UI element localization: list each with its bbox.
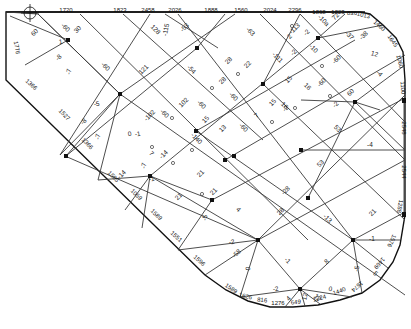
member-force-label: 15 [283,74,293,84]
boundary-length-label: 1059 [130,188,144,202]
member-force-label: -14 [157,148,169,160]
origin-crosshair-icon [21,4,39,22]
boundary-length-label: 2024 [263,7,277,13]
member-force-label: 22 [242,59,252,69]
boundary-length-label: 2544 [401,165,407,179]
boundary-length-label: 1888 [204,7,218,13]
member-force-label: 12 [300,292,308,301]
member-force-label: -60 [315,76,327,88]
member-force-label: -1 [283,256,292,265]
member-force-label: 60 [29,27,39,37]
boundary-length-label: 1589 [150,208,164,222]
member-force-label: 21 [208,186,218,196]
member-force-label: -1 [369,235,375,242]
boundary-length-label: 1576 [386,234,397,249]
member-force-label: 28 [223,55,233,65]
boundary-length-label: 1823 [113,7,127,13]
member-force-label: -4 [375,69,384,78]
member-force-label: -60 [100,60,112,72]
member-force-label: -13 [322,212,334,224]
member-force-label: 21 [173,191,183,201]
member-force-label: 13 [217,123,227,133]
boundary-length-label: 2026 [168,7,182,13]
member-force-label: 21 [195,168,205,178]
member-force-label: 4 [235,205,243,213]
member-force-label: -5 [93,100,100,108]
member-force-label: -2 [228,238,235,246]
hinge-markers [150,24,331,195]
member-force-label: -115 [161,22,170,36]
member-force-label: 1 [58,38,63,46]
boundary-length-label: 1560 [234,7,248,13]
member-force-label: -10 [308,42,320,54]
member-force-label: -58 [230,247,242,259]
boundary-length-label: 1645 [386,34,399,49]
boundary-length-label: 1100 [399,81,406,95]
member-force-label: -38 [357,29,369,41]
boundary-length-label: 1276 [271,300,285,306]
member-force-label: -60 [196,98,208,110]
member-force-label: -1 [148,175,155,183]
boundary-length-label: 816 [257,297,268,304]
member-force-label: -2 [302,27,311,36]
member-force-label: -53 [178,21,190,33]
boundary-length-label: 1460 [372,19,387,33]
member-force-label: 0 [127,130,132,138]
boundary-length-label: 2296 [288,7,302,13]
member-force-label: -7 [94,133,102,140]
member-force-label: 102 [177,96,190,109]
member-force-label: 53 [315,158,325,168]
member-force-label: -60 [159,107,171,119]
boundary-length-label: 2548 [401,121,407,135]
boundary-length-label: 2458 [141,7,155,13]
member-force-label: -4 [367,141,373,148]
member-force-label: 7 [148,149,156,157]
member-force-label: 16 [303,81,313,91]
member-force-label: -60 [330,53,342,65]
member-force-label: -8 [54,52,63,61]
member-force-label: -113 [287,21,301,35]
boundary-length-label: 1366 [24,78,38,92]
boundary-length-label: 1469 [373,256,387,271]
member-force-label: 15 [200,114,210,124]
member-force-label: -1 [134,130,141,138]
member-force-label: 7 [252,111,260,119]
member-force-label: 15 [267,97,277,107]
member-force-label: 30 [72,24,82,34]
member-force-label: 121 [137,63,150,76]
boundary-length-label: 1776 [13,41,21,56]
member-force-label: -102 [142,108,156,122]
member-force-label: 21 [367,207,377,217]
member-force-label: -5 [353,265,361,272]
member-force-label: -8 [79,116,88,125]
member-force-label: -28 [279,184,291,196]
member-force-label: 0 [244,266,252,271]
member-force-label: -7 [65,68,73,75]
member-force-label: -5 [201,214,209,221]
member-force-label: 8 [322,257,330,265]
member-force-label: -54 [186,63,198,75]
boundary-length-label: 1288 [396,199,404,214]
member-force-label: -7 [140,162,148,169]
member-force-label: 12 [370,49,379,58]
boundary-labels: 1720182324582026188815602024229618681823… [13,7,407,306]
boundary-length-label: 1013 [356,10,371,19]
truss-diagram: 1720182324582026188815602024229618681823… [0,0,411,329]
boundary-length-label: 1527 [58,108,72,122]
member-force-label: -60 [238,121,250,133]
boundary-length-label: 1720 [59,7,73,13]
member-labels: 60-60301-8-7-60128-115-53121-54-63222828… [29,11,384,303]
member-force-label: -111 [271,50,285,64]
member-force-label: -2 [272,285,279,293]
member-force-label: -60 [60,21,72,33]
member-force-label: -63 [245,25,257,37]
member-force-label: -10a [317,13,331,27]
